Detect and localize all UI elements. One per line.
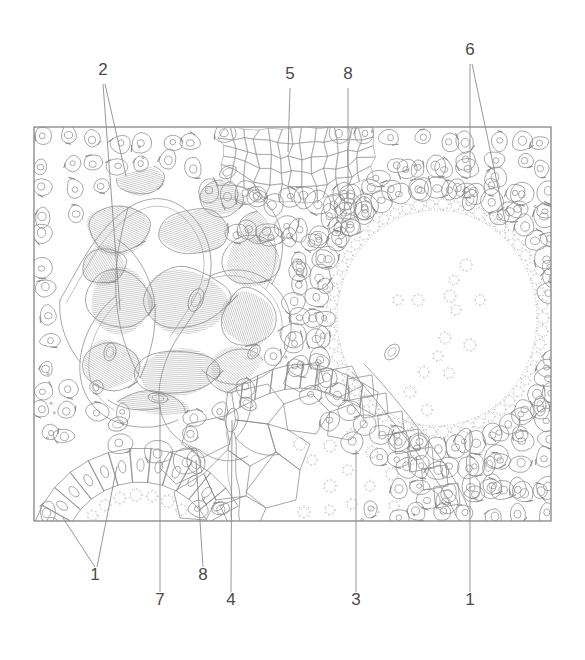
label-1-bottom-right: 1 xyxy=(465,590,474,609)
label-1-bottom-left: 1 xyxy=(90,565,99,584)
label-8-bottom: 8 xyxy=(198,565,207,584)
label-4: 4 xyxy=(226,590,235,609)
label-7: 7 xyxy=(155,590,164,609)
label-2: 2 xyxy=(98,60,107,79)
label-6: 6 xyxy=(465,40,474,59)
leader-1bl-a xyxy=(63,518,95,567)
label-3: 3 xyxy=(351,590,360,609)
label-5: 5 xyxy=(285,64,294,83)
label-8-top: 8 xyxy=(343,64,352,83)
figure-canvas: 2586178431 xyxy=(0,0,585,660)
histology-figure: 2586178431 xyxy=(0,0,585,660)
